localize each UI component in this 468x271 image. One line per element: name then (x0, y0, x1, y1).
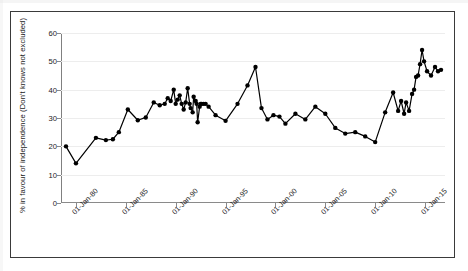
scan-edge-top (0, 0, 468, 3)
data-point-marker (416, 73, 420, 77)
chart-figure: % in favour of independence (Don't knows… (0, 0, 468, 271)
data-point-marker (179, 102, 183, 106)
data-point-marker (353, 130, 357, 134)
y-axis-title: % in favour of independence (Don't knows… (14, 15, 32, 215)
data-series-line (61, 33, 445, 203)
data-point-marker (293, 112, 297, 116)
data-point-marker (111, 137, 115, 141)
data-point-marker (213, 113, 217, 117)
data-point-marker (177, 93, 181, 97)
data-point-marker (176, 97, 180, 101)
data-point-marker (418, 62, 422, 66)
data-point-marker (333, 126, 337, 130)
data-point-marker (429, 73, 433, 77)
data-point-marker (190, 110, 194, 114)
data-point-marker (363, 134, 367, 138)
data-point-marker (283, 121, 287, 125)
data-point-marker (74, 161, 78, 165)
data-point-marker (425, 69, 429, 73)
data-point-marker (323, 112, 327, 116)
data-point-marker (410, 92, 414, 96)
data-point-marker (235, 102, 239, 106)
data-point-marker (206, 104, 210, 108)
data-point-marker (402, 112, 406, 116)
data-point-marker (183, 100, 187, 104)
scan-edge-left (0, 0, 3, 271)
y-tick-label: 30 (49, 114, 57, 123)
y-tick-label: 40 (49, 85, 57, 94)
data-point-marker (420, 48, 424, 52)
data-point-marker (172, 87, 176, 91)
data-point-marker (373, 140, 377, 144)
y-tick-label: 20 (49, 142, 57, 151)
data-point-marker (433, 65, 437, 69)
data-point-marker (181, 107, 185, 111)
data-point-marker (191, 95, 195, 99)
data-point-marker (303, 117, 307, 121)
data-point-marker (104, 138, 108, 142)
data-point-marker (174, 102, 178, 106)
data-point-marker (64, 144, 68, 148)
data-point-marker (158, 103, 162, 107)
data-point-marker (136, 118, 140, 122)
y-tick-mark (57, 203, 61, 204)
data-point-marker (94, 136, 98, 140)
data-point-marker (412, 87, 416, 91)
data-point-marker (407, 109, 411, 113)
data-point-marker (152, 100, 156, 104)
plot-area: 0102030405060 01-Jan-8001-Jan-8501-Jan-9… (61, 33, 445, 203)
data-point-marker (383, 110, 387, 114)
y-axis-title-text: % in favour of independence (Don't knows… (19, 17, 28, 212)
data-point-marker (245, 83, 249, 87)
data-point-marker (195, 120, 199, 124)
data-point-marker (399, 99, 403, 103)
data-point-marker (253, 65, 257, 69)
data-point-marker (126, 107, 130, 111)
data-point-marker (185, 86, 189, 90)
data-point-marker (223, 119, 227, 123)
data-point-marker (169, 99, 173, 103)
data-point-marker (439, 68, 443, 72)
data-point-marker (144, 115, 148, 119)
data-point-marker (187, 102, 191, 106)
data-point-marker (277, 114, 281, 118)
y-tick-label: 50 (49, 57, 57, 66)
data-point-marker (313, 104, 317, 108)
data-point-marker (343, 131, 347, 135)
data-point-marker (163, 102, 167, 106)
data-point-marker (404, 100, 408, 104)
data-point-marker (391, 90, 395, 94)
data-point-marker (259, 106, 263, 110)
y-tick-label: 10 (49, 170, 57, 179)
data-point-marker (271, 113, 275, 117)
data-point-marker (422, 59, 426, 63)
data-point-marker (188, 106, 192, 110)
y-tick-label: 0 (53, 199, 57, 208)
data-point-marker (396, 109, 400, 113)
data-point-marker (265, 117, 269, 121)
data-point-marker (117, 130, 121, 134)
y-tick-label: 60 (49, 29, 57, 38)
